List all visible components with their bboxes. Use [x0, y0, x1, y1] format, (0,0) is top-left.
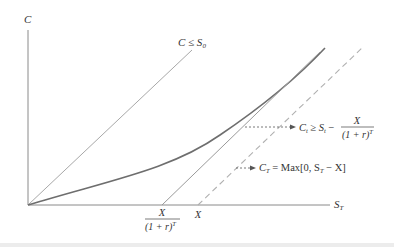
y-axis-label: C [24, 13, 32, 25]
strike-label: X [194, 209, 202, 220]
x-axis-label: ST [334, 198, 345, 212]
lower-bound-fraction-denominator: (1 + r)T [342, 128, 373, 141]
lower-bound-fraction-numerator: X [353, 115, 361, 126]
pv-strike-numerator: X [158, 207, 166, 218]
option-bounds-diagram: C ST C ≤ S0 Ct ≥ St − X (1 + r)T CT = Ma… [0, 0, 394, 247]
bottom-border [0, 243, 394, 247]
upper-bound-label: C ≤ S0 [178, 36, 206, 50]
arrowhead-icon [250, 166, 256, 171]
payoff-label: CT = Max[0, ST − X] [259, 162, 346, 174]
lower-bound-line [162, 52, 320, 205]
pv-strike-denominator: (1 + r)T [145, 220, 176, 233]
lower-bound-label: Ct ≥ St − [299, 122, 335, 134]
payoff-dashed-line [198, 48, 362, 205]
arrowhead-icon [290, 125, 296, 130]
